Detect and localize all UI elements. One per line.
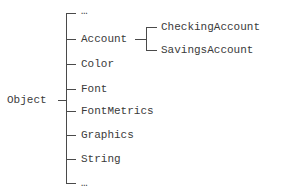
node-ellipsis-bottom: …: [81, 177, 88, 189]
branch-tick: [66, 135, 76, 136]
branch-tick: [66, 111, 76, 112]
node-account: Account: [81, 33, 127, 45]
node-color: Color: [81, 58, 114, 70]
class-hierarchy-diagram: Object … Account Color Font FontMetrics …: [0, 0, 282, 194]
branch-tick: [146, 27, 157, 28]
branch-tick: [66, 89, 76, 90]
node-ellipsis-top: …: [81, 5, 88, 17]
branch-tick: [66, 64, 76, 65]
branch-tick: [66, 159, 76, 160]
branch-tick: [146, 50, 157, 51]
connector-root: [58, 100, 66, 101]
node-font: Font: [81, 83, 107, 95]
node-graphics: Graphics: [81, 129, 134, 141]
branch-tick: [66, 13, 76, 14]
node-savingsaccount: SavingsAccount: [161, 44, 253, 56]
node-fontmetrics: FontMetrics: [81, 105, 154, 117]
connector-account: [135, 39, 146, 40]
node-checkingaccount: CheckingAccount: [161, 21, 260, 33]
branch-tick: [66, 39, 76, 40]
node-object: Object: [7, 94, 47, 106]
node-string: String: [81, 153, 121, 165]
account-subtrunk: [146, 27, 147, 51]
branch-tick: [66, 183, 76, 184]
